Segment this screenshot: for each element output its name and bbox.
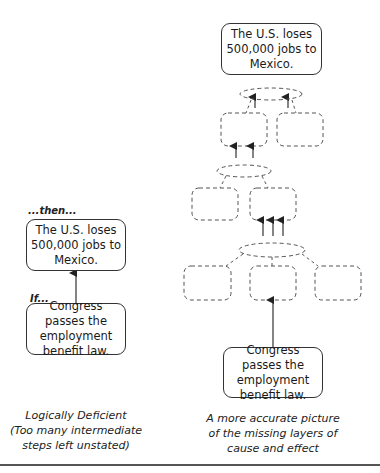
right-cause-box: Congress passes the employment benefit l… [223,347,323,398]
grouping-ellipse [217,165,271,177]
right-caption-line1: A more accurate picture [198,411,348,426]
then-label: ...then... [28,205,77,216]
left-caption: Logically Deficient (Too many intermedia… [6,408,146,453]
unknown-step-box [277,113,323,146]
unknown-step-box [250,188,296,220]
unknown-step-box [192,188,238,220]
bottom-rule [0,464,380,466]
left-effect-box: The U.S. loses 500,000 jobs to Mexico. [26,219,126,271]
left-cause-box: Congress passes the employment benefit l… [26,303,126,355]
right-caption: A more accurate picture of the missing l… [198,411,348,456]
unknown-step-box [250,266,296,300]
left-caption-line3: steps left unstated) [6,438,146,453]
right-caption-line3: cause and effect [198,441,348,456]
unknown-step-box [221,113,267,146]
right-caption-line2: of the missing layers of [198,426,348,441]
grouping-ellipse [239,243,305,257]
unknown-step-box [184,266,231,300]
left-caption-line2: (Too many intermediate [6,423,146,438]
right-effect-box: The U.S. loses 500,000 jobs to Mexico. [221,23,322,75]
unknown-step-box [315,266,361,300]
grouping-ellipse [240,88,302,100]
left-caption-line1: Logically Deficient [6,408,146,423]
